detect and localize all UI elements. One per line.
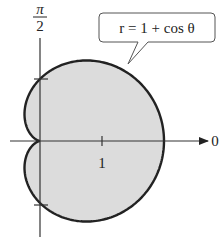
callout-text: r = 1 + cos θ (119, 20, 194, 36)
polar-plot: 1 0 π 2 r = 1 + cos θ (0, 0, 223, 242)
equation-callout: r = 1 + cos θ (99, 13, 215, 64)
label-zero: 0 (211, 133, 219, 149)
label-pi: π (36, 1, 44, 17)
label-one: 1 (98, 155, 106, 171)
label-two: 2 (36, 18, 44, 34)
